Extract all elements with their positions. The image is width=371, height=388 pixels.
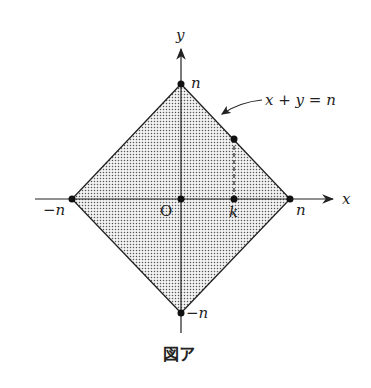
diagram: y x n n −n −n O k x + y = n 図ア: [0, 0, 371, 388]
vertex-bottom: [178, 310, 185, 317]
label-k: k: [229, 203, 238, 221]
point-on-line: [231, 136, 238, 143]
label-bottom-n: −n: [186, 304, 208, 322]
label-right-n: n: [296, 201, 306, 219]
figure-caption: 図ア: [163, 345, 195, 364]
label-top-n: n: [191, 74, 201, 92]
vertex-top: [178, 81, 185, 88]
x-axis-label: x: [342, 190, 351, 208]
vertex-left: [69, 196, 76, 203]
label-arrow: [222, 100, 262, 114]
origin-point: [178, 196, 185, 203]
line-equation-label: x + y = n: [265, 91, 336, 109]
label-left-n: −n: [43, 201, 65, 219]
y-axis-label: y: [175, 26, 185, 44]
point-k: [231, 196, 238, 203]
origin-label: O: [160, 202, 172, 220]
vertex-right: [287, 196, 294, 203]
